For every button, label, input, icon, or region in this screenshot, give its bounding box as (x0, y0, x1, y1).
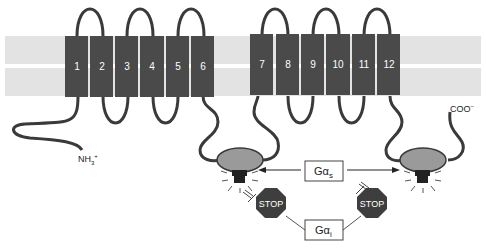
svg-text:STOP: STOP (360, 199, 384, 209)
g-alpha-s: Gαs (258, 161, 400, 181)
helix-8-label: 8 (285, 59, 291, 70)
stop-sign-left-icon: STOP (256, 188, 286, 218)
catalytic-domain-right (400, 148, 446, 193)
helix-1-label: 1 (74, 61, 80, 72)
adenylyl-cyclase-diagram: 1 2 3 4 5 6 7 8 9 10 11 12 NH3+ COO− (0, 0, 486, 250)
helix-9-label: 9 (310, 59, 316, 70)
c-terminus-label: COO− (450, 103, 475, 114)
helix-7-label: 7 (259, 59, 265, 70)
g-alpha-i: Gαi (286, 216, 361, 240)
n-terminus-label: NH3+ (78, 153, 98, 166)
extracellular-loops (77, 9, 390, 36)
stop-sign-right-icon: STOP (357, 188, 387, 218)
helix-12-label: 12 (383, 59, 395, 70)
helix-10-label: 10 (332, 59, 344, 70)
helix-4-label: 4 (149, 61, 155, 72)
helix-3-label: 3 (124, 61, 130, 72)
helix-5-label: 5 (175, 61, 181, 72)
helix-11-label: 11 (359, 59, 370, 70)
helix-6-label: 6 (200, 61, 206, 72)
helix-2-label: 2 (99, 61, 105, 72)
catalytic-domain-left (217, 148, 263, 193)
svg-text:STOP: STOP (259, 199, 283, 209)
